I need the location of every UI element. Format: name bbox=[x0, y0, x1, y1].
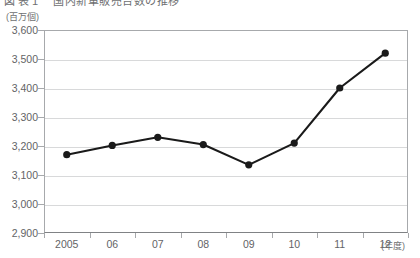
data-point-marker bbox=[154, 134, 161, 141]
data-point-marker bbox=[63, 151, 70, 158]
data-point-marker bbox=[109, 142, 116, 149]
data-point-marker bbox=[245, 161, 252, 168]
data-point-marker bbox=[382, 50, 389, 57]
data-point-marker bbox=[200, 141, 207, 148]
data-point-marker bbox=[336, 84, 343, 91]
data-point-marker bbox=[291, 140, 298, 147]
data-series bbox=[0, 0, 420, 258]
